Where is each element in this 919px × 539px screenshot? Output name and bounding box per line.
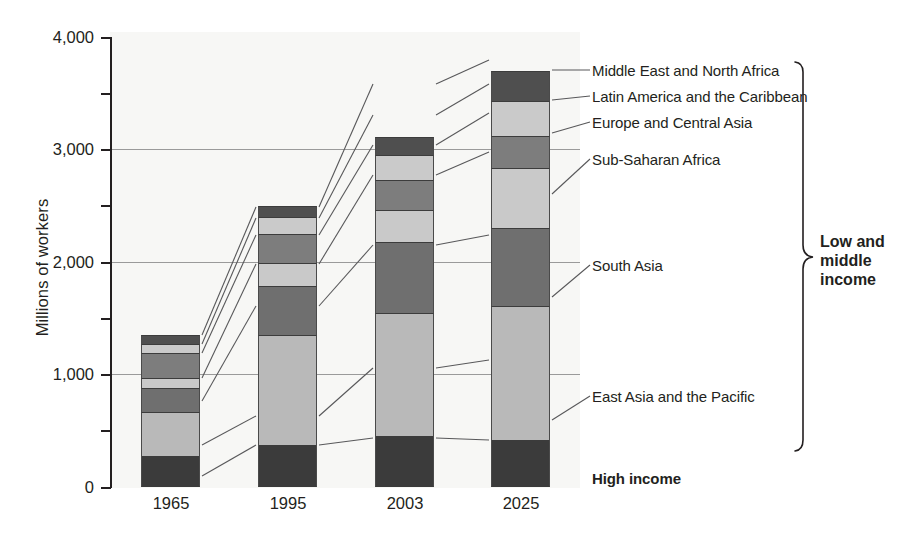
bar-segment-south-asia-2003[interactable] bbox=[375, 242, 434, 313]
y-tick-3500 bbox=[101, 93, 111, 95]
y-tick-500 bbox=[101, 430, 111, 432]
bar-segment-high-income-1965[interactable] bbox=[141, 456, 200, 488]
y-tick-2500 bbox=[101, 205, 111, 207]
legend-item-middle-east-and-north-africa[interactable]: Middle East and North Africa bbox=[592, 62, 779, 79]
bar-2025[interactable] bbox=[491, 37, 550, 487]
legend-item-europe-and-central-asia[interactable]: Europe and Central Asia bbox=[592, 114, 752, 131]
y-tick-2000 bbox=[101, 262, 111, 264]
x-tick-label-1965: 1965 bbox=[126, 494, 216, 513]
legend-item-high-income[interactable]: High income bbox=[592, 470, 681, 487]
y-tick-1500 bbox=[101, 318, 111, 320]
bar-1995[interactable] bbox=[258, 37, 317, 487]
group-label-low-and-middle-income: Low and middle income bbox=[820, 232, 885, 289]
bar-segment-high-income-1995[interactable] bbox=[258, 445, 317, 487]
bar-segment-middle-east-and-north-africa-2003[interactable] bbox=[375, 137, 434, 155]
bar-segment-europe-and-central-asia-2025[interactable] bbox=[491, 136, 550, 168]
x-tick-label-1995: 1995 bbox=[243, 494, 333, 513]
y-tick-label-1000: 1,000 bbox=[28, 365, 94, 384]
y-tick-label-4000: 4,000 bbox=[28, 28, 94, 47]
bar-segment-east-asia-and-the-pacific-2003[interactable] bbox=[375, 313, 434, 437]
bar-segment-europe-and-central-asia-2003[interactable] bbox=[375, 180, 434, 210]
bar-segment-sub-saharan-africa-2025[interactable] bbox=[491, 168, 550, 229]
bar-segment-sub-saharan-africa-1965[interactable] bbox=[141, 378, 200, 388]
y-tick-4000 bbox=[101, 37, 111, 39]
y-tick-label-0: 0 bbox=[28, 478, 94, 497]
y-tick-0 bbox=[101, 487, 111, 489]
bar-segment-europe-and-central-asia-1965[interactable] bbox=[141, 353, 200, 378]
bar-segment-middle-east-and-north-africa-2025[interactable] bbox=[491, 71, 550, 101]
bar-segment-sub-saharan-africa-2003[interactable] bbox=[375, 210, 434, 242]
legend-item-latin-america-and-the-caribbean[interactable]: Latin America and the Caribbean bbox=[592, 88, 807, 105]
x-tick-label-2003: 2003 bbox=[360, 494, 450, 513]
group-label-line-2: middle bbox=[820, 251, 885, 270]
bar-segment-latin-america-and-the-caribbean-2025[interactable] bbox=[491, 101, 550, 136]
bar-segment-east-asia-and-the-pacific-1995[interactable] bbox=[258, 335, 317, 445]
legend-item-east-asia-and-the-pacific[interactable]: East Asia and the Pacific bbox=[592, 388, 755, 405]
y-tick-3000 bbox=[101, 149, 111, 151]
x-tick-label-2025: 2025 bbox=[476, 494, 566, 513]
y-tick-label-2000: 2,000 bbox=[28, 253, 94, 272]
bar-segment-south-asia-1995[interactable] bbox=[258, 286, 317, 336]
bar-segment-latin-america-and-the-caribbean-1995[interactable] bbox=[258, 217, 317, 234]
legend-item-sub-saharan-africa[interactable]: Sub-Saharan Africa bbox=[592, 151, 720, 168]
bar-1965[interactable] bbox=[141, 37, 200, 487]
bar-segment-east-asia-and-the-pacific-2025[interactable] bbox=[491, 306, 550, 440]
bar-segment-middle-east-and-north-africa-1995[interactable] bbox=[258, 206, 317, 217]
bar-2003[interactable] bbox=[375, 37, 434, 487]
bar-segment-sub-saharan-africa-1995[interactable] bbox=[258, 263, 317, 286]
bar-segment-europe-and-central-asia-1995[interactable] bbox=[258, 234, 317, 263]
y-tick-1000 bbox=[101, 374, 111, 376]
chart-page: Millions of workers 4,000 3,000 2,000 1,… bbox=[0, 0, 919, 539]
group-label-line-3: income bbox=[820, 270, 885, 289]
bar-segment-high-income-2003[interactable] bbox=[375, 436, 434, 487]
bar-segment-east-asia-and-the-pacific-1965[interactable] bbox=[141, 412, 200, 456]
y-tick-label-3000: 3,000 bbox=[28, 140, 94, 159]
bar-segment-south-asia-2025[interactable] bbox=[491, 228, 550, 306]
legend-item-south-asia[interactable]: South Asia bbox=[592, 257, 663, 274]
bar-segment-latin-america-and-the-caribbean-1965[interactable] bbox=[141, 344, 200, 353]
bar-segment-latin-america-and-the-caribbean-2003[interactable] bbox=[375, 155, 434, 180]
bar-segment-high-income-2025[interactable] bbox=[491, 440, 550, 487]
bar-segment-middle-east-and-north-africa-1965[interactable] bbox=[141, 335, 200, 344]
group-label-line-1: Low and bbox=[820, 232, 885, 251]
bar-segment-south-asia-1965[interactable] bbox=[141, 388, 200, 412]
